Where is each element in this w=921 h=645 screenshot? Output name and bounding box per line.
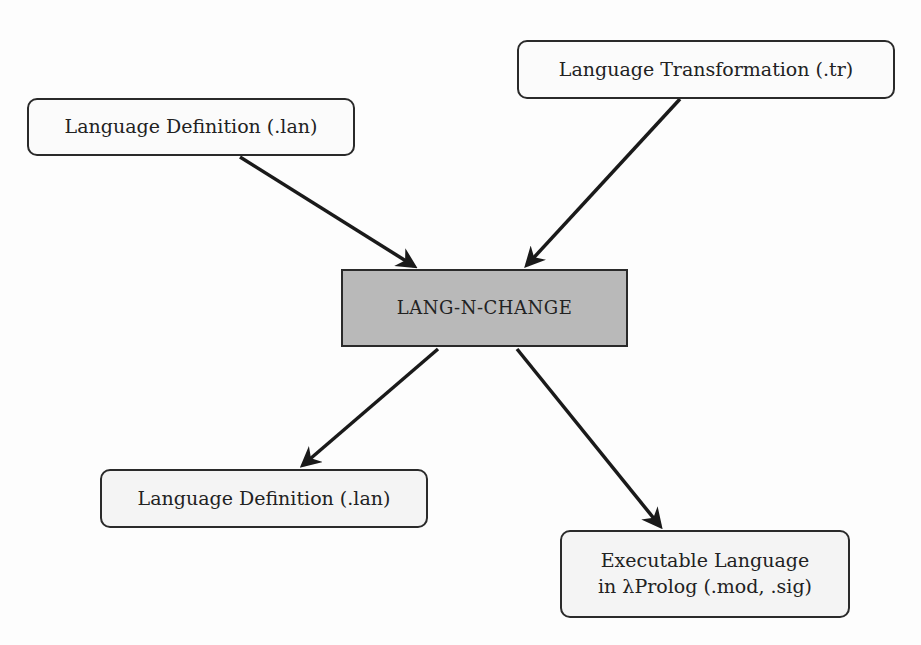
node-language-definition-output: Language Definition (.lan) bbox=[100, 469, 428, 528]
edge-core-to-lan bbox=[303, 349, 438, 465]
node-language-definition-input: Language Definition (.lan) bbox=[27, 98, 355, 156]
node-label: Language Definition (.lan) bbox=[138, 486, 391, 512]
edge-core-to-exec bbox=[517, 349, 660, 526]
edge-tr-to-core bbox=[527, 99, 680, 265]
diagram-canvas: Language Definition (.lan) Language Tran… bbox=[0, 0, 921, 645]
node-language-transformation-input: Language Transformation (.tr) bbox=[517, 40, 895, 99]
node-label: LANG-N-CHANGE bbox=[397, 296, 573, 320]
node-label: Language Definition (.lan) bbox=[65, 114, 318, 140]
node-executable-language-output: Executable Language in λProlog (.mod, .s… bbox=[560, 530, 850, 618]
node-label: Language Transformation (.tr) bbox=[559, 57, 853, 83]
node-lang-n-change: LANG-N-CHANGE bbox=[341, 269, 628, 347]
edge-lan-to-core bbox=[240, 157, 414, 266]
node-label: Executable Language in λProlog (.mod, .s… bbox=[598, 548, 812, 599]
